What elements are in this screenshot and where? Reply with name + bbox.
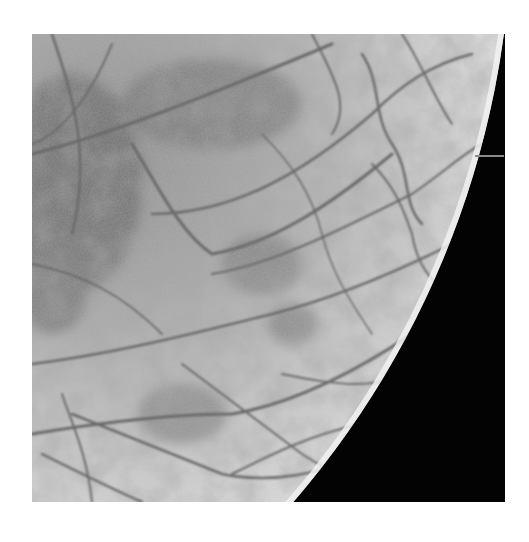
moon-surface-photo — [32, 34, 505, 502]
artifact-line — [475, 155, 504, 157]
surface-illustration — [32, 34, 505, 502]
